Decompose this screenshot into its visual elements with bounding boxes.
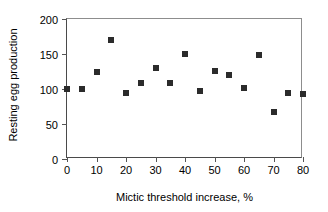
data-point: [123, 90, 129, 96]
x-tick: [126, 157, 127, 162]
y-tick-label: 50: [46, 119, 58, 131]
data-point: [167, 80, 173, 86]
x-tick: [97, 157, 98, 162]
data-point: [285, 90, 291, 96]
y-tick: 150: [62, 54, 67, 55]
x-tick: [185, 157, 186, 162]
data-point: [226, 72, 232, 78]
x-tick: [244, 157, 245, 162]
y-tick-label: 200: [40, 14, 58, 26]
data-point: [182, 51, 188, 57]
y-tick-label: 150: [40, 49, 58, 61]
data-point: [241, 85, 247, 91]
x-tick-label: 30: [149, 164, 161, 176]
x-tick: [274, 157, 275, 162]
x-tick: [67, 157, 68, 162]
x-tick: [303, 157, 304, 162]
data-point: [197, 88, 203, 94]
x-tick: [215, 157, 216, 162]
data-point: [300, 91, 306, 97]
data-point: [79, 86, 85, 92]
plot-area: 050100150200 01020304050607080: [66, 18, 302, 158]
data-point: [212, 68, 218, 74]
data-point: [94, 69, 100, 75]
data-point: [153, 65, 159, 71]
x-tick-label: 0: [64, 164, 70, 176]
x-tick-label: 10: [90, 164, 102, 176]
data-point: [64, 86, 70, 92]
y-tick-label: 100: [40, 84, 58, 96]
data-point: [256, 52, 262, 58]
x-tick: [156, 157, 157, 162]
data-point: [271, 109, 277, 115]
y-tick-label: 0: [52, 154, 58, 166]
x-tick-label: 40: [179, 164, 191, 176]
data-point: [138, 80, 144, 86]
x-tick-label: 60: [238, 164, 250, 176]
x-tick-label: 50: [208, 164, 220, 176]
y-axis-title: Resting egg production: [6, 10, 20, 160]
y-tick: 200: [62, 19, 67, 20]
data-point: [108, 37, 114, 43]
x-axis-title: Mictic threshold increase, %: [66, 191, 303, 203]
x-tick-label: 70: [267, 164, 279, 176]
x-tick-label: 80: [297, 164, 309, 176]
x-tick-label: 20: [120, 164, 132, 176]
scatter-chart-figure: Resting egg production 050100150200 0102…: [0, 0, 328, 212]
y-tick: 50: [62, 124, 67, 125]
